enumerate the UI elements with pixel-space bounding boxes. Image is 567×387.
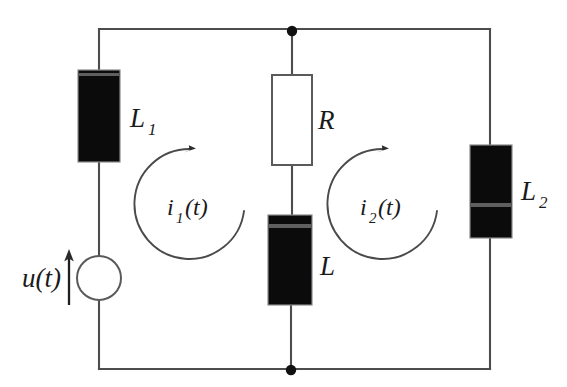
inductor-l1-body: [78, 70, 120, 162]
component-inductor-l2[interactable]: [470, 145, 512, 238]
component-inductor-l[interactable]: [268, 215, 312, 305]
label-inductor-l1: L 1: [129, 103, 157, 139]
node-bottom-junction: [286, 365, 296, 375]
circuit-diagram: u(t) L 1 R L L 2 i 1 (t) i 2 (t): [0, 0, 567, 387]
inductor-l-body: [268, 215, 312, 305]
component-resistor-r[interactable]: [272, 75, 312, 165]
inductor-l-highlight-band: [269, 224, 311, 228]
label-mesh-current-1-letter: i: [167, 194, 174, 220]
component-inductor-l1[interactable]: [78, 70, 120, 162]
label-mesh-current-1-suffix: (t): [185, 194, 208, 220]
component-voltage-source[interactable]: [64, 249, 121, 305]
inductor-l1-highlight-band: [79, 73, 119, 76]
resistor-r-body: [272, 75, 312, 165]
label-inductor-l1-letter: L: [129, 103, 145, 133]
voltage-source-arrow-icon: [64, 249, 74, 305]
label-inductor-l2-letter: L: [520, 176, 536, 206]
voltage-source-circle: [77, 256, 121, 300]
label-resistor-r: R: [317, 105, 335, 135]
node-top-junction: [287, 26, 297, 36]
inductor-l2-highlight-band: [471, 203, 511, 207]
label-inductor-l: L: [319, 251, 335, 281]
label-mesh-current-2-subscript: 2: [369, 210, 377, 226]
label-mesh-current-2-letter: i: [360, 194, 367, 220]
label-mesh-current-2-suffix: (t): [378, 194, 401, 220]
inductor-l2-body: [470, 145, 512, 238]
label-mesh-current-1-subscript: 1: [176, 210, 184, 226]
label-inductor-l1-subscript: 1: [148, 120, 157, 139]
label-mesh-current-2: i 2 (t): [360, 194, 401, 226]
label-inductor-l2: L 2: [520, 176, 548, 212]
label-inductor-l2-subscript: 2: [539, 193, 548, 212]
label-mesh-current-1: i 1 (t): [167, 194, 208, 226]
label-source: u(t): [22, 263, 61, 293]
circuit-canvas: u(t) L 1 R L L 2 i 1 (t) i 2 (t): [0, 0, 567, 387]
